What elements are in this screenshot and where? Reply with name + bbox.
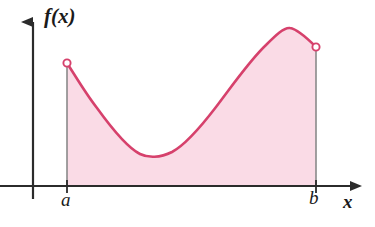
lower-limit-label: a: [61, 190, 71, 209]
integral-area-figure: f(x) a b x: [0, 0, 375, 227]
shaded-area-region: [67, 28, 316, 186]
upper-limit-label: b: [309, 188, 319, 207]
left-endpoint-open-circle: [63, 59, 70, 66]
figure-canvas: [0, 0, 375, 227]
function-label: f(x): [44, 6, 75, 27]
right-endpoint-open-circle: [312, 43, 319, 50]
x-axis-label: x: [343, 192, 353, 211]
